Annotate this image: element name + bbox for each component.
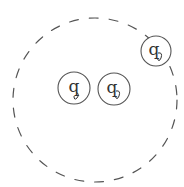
node-label: q — [107, 77, 118, 97]
node-2: q — [98, 73, 130, 105]
diagram-canvas: q q q — [0, 0, 184, 187]
node-label: q — [149, 39, 160, 59]
node-1: q — [58, 72, 90, 104]
node-3: q — [141, 36, 171, 66]
